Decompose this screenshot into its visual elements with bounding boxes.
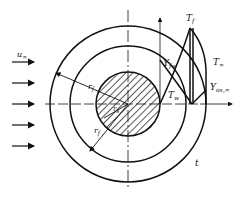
label-r-s: rs <box>113 106 119 114</box>
label-t-main: t <box>195 158 199 168</box>
label-Y-fw: Yfw <box>163 59 176 69</box>
label-r-f-upper: rf <box>88 83 94 92</box>
label-r-f-lower-sub: f <box>98 129 100 136</box>
label-Y-ox-inf: Yox,∞ <box>210 83 230 93</box>
flow-arrows <box>12 62 34 146</box>
label-T-w: Tw <box>168 91 179 101</box>
label-r-f-lower: rf <box>94 127 100 136</box>
label-r-s-sub: s <box>116 107 119 114</box>
label-T-f: Tf <box>186 14 194 24</box>
diagram-canvas <box>0 0 248 201</box>
label-t: t <box>195 159 199 168</box>
label-r-f-upper-sub: f <box>92 85 94 92</box>
label-u-inf: u∞ <box>17 51 27 60</box>
label-T-inf-sub: ∞ <box>219 61 224 68</box>
label-Y-ox-inf-sub: ox,∞ <box>216 86 230 93</box>
label-u-inf-sub: ∞ <box>22 53 27 60</box>
label-T-w-sub: w <box>174 94 179 101</box>
label-T-inf: T∞ <box>213 58 224 68</box>
label-T-f-sub: f <box>192 17 194 24</box>
label-Y-fw-sub: fw <box>169 62 176 69</box>
